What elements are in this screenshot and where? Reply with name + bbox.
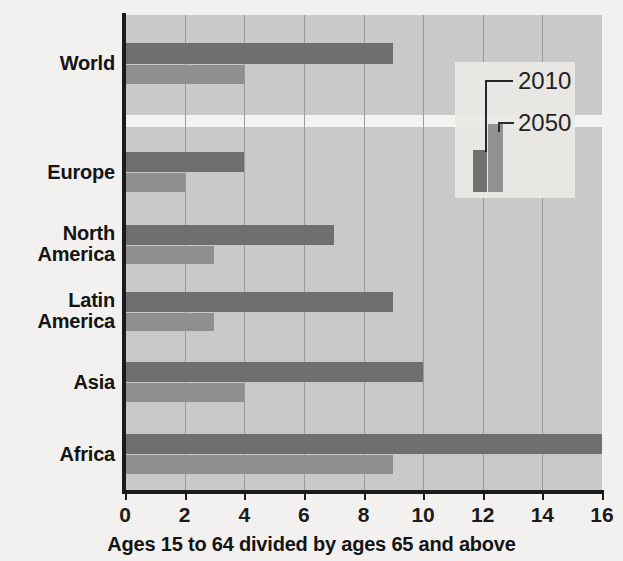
category-label-africa: Africa [0, 444, 115, 465]
x-axis-line [122, 490, 603, 494]
category-label-europe: Europe [0, 162, 115, 183]
legend-swatch-2010 [473, 150, 487, 192]
x-tick-label: 2 [165, 503, 205, 527]
category-label-world: World [0, 53, 115, 74]
category-label-line: Africa [0, 444, 115, 465]
legend-swatch-2050 [488, 124, 503, 192]
category-label-latin-america: LatinAmerica [0, 290, 115, 332]
bar-latin-america-2010 [125, 292, 393, 312]
leader-line-2050-horizontal [498, 122, 514, 124]
gridline [364, 15, 365, 492]
leader-line-2010-horizontal [485, 80, 513, 82]
bar-world-2010 [125, 43, 393, 64]
category-labels: WorldEuropeNorthAmericaLatinAmericaAsiaA… [0, 0, 115, 500]
legend-label-2010: 2010 [518, 67, 571, 95]
category-label-north-america: NorthAmerica [0, 223, 115, 265]
bar-north-america-2050 [125, 246, 214, 264]
category-label-line: America [0, 311, 115, 332]
gridline [244, 15, 245, 492]
chart-figure: 0246810121416 WorldEuropeNorthAmericaLat… [0, 0, 623, 561]
x-tick [602, 490, 604, 500]
bar-latin-america-2050 [125, 313, 214, 331]
gridline [423, 15, 424, 492]
bar-asia-2050 [125, 383, 244, 402]
x-tick [423, 490, 425, 500]
x-tick [304, 490, 306, 500]
bar-europe-2050 [125, 173, 185, 192]
category-label-line: Asia [0, 372, 115, 393]
bar-europe-2010 [125, 152, 244, 172]
x-tick [244, 490, 246, 500]
x-tick-label: 10 [403, 503, 443, 527]
bar-asia-2010 [125, 362, 423, 382]
chart-legend: 2010 2050 [455, 62, 575, 198]
bar-africa-2050 [125, 455, 393, 474]
x-tick-label: 14 [522, 503, 562, 527]
x-axis-title: Ages 15 to 64 divided by ages 65 and abo… [0, 533, 623, 556]
gridline [304, 15, 305, 492]
x-tick-label: 0 [105, 503, 145, 527]
x-tick-label: 6 [284, 503, 324, 527]
bar-africa-2010 [125, 434, 602, 454]
x-tick [125, 490, 127, 500]
x-tick-label: 12 [463, 503, 503, 527]
x-tick-label: 16 [582, 503, 622, 527]
bar-north-america-2010 [125, 225, 334, 245]
category-label-asia: Asia [0, 372, 115, 393]
legend-label-2050: 2050 [518, 109, 571, 137]
category-label-line: America [0, 244, 115, 265]
y-axis-line [122, 13, 126, 494]
x-tick [185, 490, 187, 500]
category-label-line: World [0, 53, 115, 74]
leader-line-2010-vertical [485, 80, 487, 152]
x-tick-label: 8 [344, 503, 384, 527]
x-tick [483, 490, 485, 500]
x-tick [542, 490, 544, 500]
category-label-line: Europe [0, 162, 115, 183]
leader-line-2050-vertical [498, 122, 500, 132]
category-label-line: Latin [0, 290, 115, 311]
bar-world-2050 [125, 65, 244, 84]
x-tick [364, 490, 366, 500]
category-label-line: North [0, 223, 115, 244]
x-tick-label: 4 [224, 503, 264, 527]
